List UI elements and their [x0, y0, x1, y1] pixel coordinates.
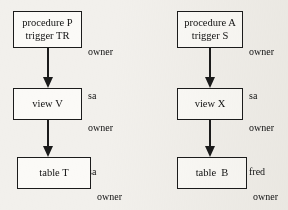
node-table-b-line1: table B [196, 167, 229, 179]
arrow-x-to-b-head [205, 146, 215, 157]
node-table-t[interactable]: table T [17, 157, 91, 189]
node-procedure-a-line2: trigger S [192, 30, 228, 42]
node-procedure-a-line1: procedure A [184, 17, 236, 29]
owner-procedure-p-label: owner [88, 45, 113, 60]
node-procedure-p[interactable]: procedure P trigger TR [13, 11, 82, 48]
arrow-a-to-x-head [205, 77, 215, 88]
arrow-p-to-v-head [43, 77, 53, 88]
node-view-v[interactable]: view V [13, 88, 82, 120]
node-procedure-p-line2: trigger TR [26, 30, 70, 42]
owner-procedure-a-label: owner [249, 45, 274, 60]
node-view-x[interactable]: view X [177, 88, 243, 120]
node-view-v-line1: view V [32, 98, 62, 110]
node-table-t-line1: table T [39, 167, 68, 179]
owner-table-t: owner sa [97, 161, 122, 210]
owner-table-t-label: owner [97, 190, 122, 205]
arrow-p-to-v-stem [47, 48, 49, 78]
owner-table-b-label: owner [253, 190, 278, 205]
owner-view-v-label: owner [88, 121, 113, 136]
node-procedure-a[interactable]: procedure A trigger S [177, 11, 243, 48]
arrow-v-to-t-head [43, 146, 53, 157]
arrow-v-to-t-stem [47, 120, 49, 147]
node-procedure-p-line1: procedure P [22, 17, 72, 29]
diagram-canvas: procedure P trigger TR owner sa view V o… [0, 0, 288, 210]
node-view-x-line1: view X [195, 98, 226, 110]
owner-table-b: owner sa [253, 161, 278, 210]
arrow-a-to-x-stem [209, 48, 211, 78]
node-table-b[interactable]: table B [177, 157, 247, 189]
owner-view-x-label: owner [249, 121, 274, 136]
arrow-x-to-b-stem [209, 120, 211, 147]
